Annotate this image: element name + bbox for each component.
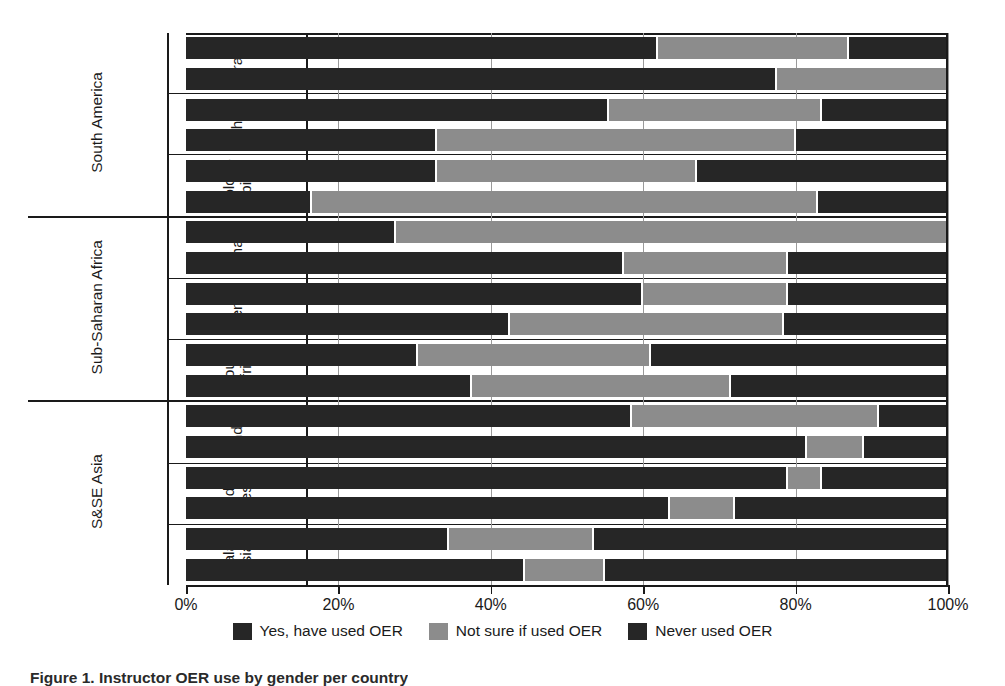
- bar-segment: [605, 559, 946, 581]
- bar-segment: [658, 37, 847, 59]
- bar-segment: [784, 313, 946, 335]
- x-tick-20: [338, 585, 340, 594]
- plot-area: [186, 33, 948, 585]
- bar-row: [186, 191, 948, 213]
- legend-swatch-icon: [628, 623, 647, 640]
- bar-segment: [807, 436, 862, 458]
- region-label-text: S&SE Asia: [89, 454, 105, 529]
- x-tick-80: [796, 585, 798, 594]
- bar-segment: [643, 283, 786, 305]
- legend-item[interactable]: Yes, have used OER: [233, 622, 403, 640]
- bar-segment: [796, 129, 946, 151]
- bar-segment: [731, 375, 946, 397]
- bar-segment: [449, 528, 592, 550]
- x-tick-0: [186, 585, 188, 594]
- bar-segment: [788, 283, 946, 305]
- bar-segment: [186, 344, 416, 366]
- bar-segment: [624, 252, 786, 274]
- bar-segment: [396, 221, 946, 243]
- bar-row: [186, 528, 948, 550]
- bar-row: [186, 497, 948, 519]
- x-tick-40: [491, 585, 493, 594]
- bar-row: [186, 160, 948, 182]
- bar-segment: [525, 559, 603, 581]
- bar-segment: [186, 559, 523, 581]
- bar-segment: [788, 252, 946, 274]
- bar-segment: [312, 191, 817, 213]
- region-label-sub-saharan-africa: Sub-Saharan Africa: [28, 217, 168, 402]
- region-label-text: South America: [89, 72, 105, 173]
- region-label-s-se-asia: S&SE Asia: [28, 401, 168, 585]
- x-tick-label: 100%: [928, 596, 969, 614]
- bar-segment: [777, 68, 946, 90]
- bar-segment: [849, 37, 946, 59]
- x-tick-label: 40%: [475, 596, 507, 614]
- x-tick-label: 60%: [627, 596, 659, 614]
- bar-segment: [186, 313, 508, 335]
- region-label-south-america: South America: [28, 33, 168, 217]
- bar-segment: [186, 221, 394, 243]
- bar-segment: [609, 99, 820, 121]
- bar-segment: [632, 405, 878, 427]
- bar-segment: [472, 375, 729, 397]
- figure-caption: Figure 1. Instructor OER use by gender p…: [30, 669, 408, 686]
- bar-row: [186, 344, 948, 366]
- bar-segment: [186, 160, 435, 182]
- legend-item[interactable]: Never used OER: [628, 622, 772, 640]
- bar-row: [186, 68, 948, 90]
- bar-row: [186, 375, 948, 397]
- x-tick-label: 0%: [174, 596, 197, 614]
- bar-row: [186, 405, 948, 427]
- figure-container: South AmericaBrazilFemaleMaleChileFemale…: [0, 0, 1005, 686]
- bar-row: [186, 559, 948, 581]
- legend-swatch-icon: [233, 623, 252, 640]
- bar-segment: [818, 191, 946, 213]
- legend-item[interactable]: Not sure if used OER: [429, 622, 602, 640]
- bar-row: [186, 436, 948, 458]
- bar-segment: [186, 99, 607, 121]
- legend-label: Not sure if used OER: [456, 622, 602, 640]
- bar-row: [186, 313, 948, 335]
- legend-label: Never used OER: [655, 622, 772, 640]
- legend-swatch-icon: [429, 623, 448, 640]
- bar-segment: [822, 99, 946, 121]
- bar-segment: [437, 129, 793, 151]
- bar-row: [186, 99, 948, 121]
- bar-row: [186, 37, 948, 59]
- bar-segment: [822, 467, 946, 489]
- bar-segment: [735, 497, 946, 519]
- gridline-100: [948, 33, 949, 585]
- bar-segment: [437, 160, 694, 182]
- bar-segment: [697, 160, 946, 182]
- bar-row: [186, 283, 948, 305]
- bar-row: [186, 252, 948, 274]
- bar-segment: [186, 283, 641, 305]
- bar-segment: [186, 467, 786, 489]
- bar-segment: [186, 252, 622, 274]
- x-tick-60: [643, 585, 645, 594]
- bar-segment: [864, 436, 946, 458]
- bar-segment: [670, 497, 733, 519]
- bar-segment: [186, 436, 805, 458]
- x-tick-label: 20%: [322, 596, 354, 614]
- bar-segment: [186, 528, 447, 550]
- bar-segment: [186, 375, 470, 397]
- legend-label: Yes, have used OER: [260, 622, 403, 640]
- legend: Yes, have used OERNot sure if used OERNe…: [0, 622, 1005, 640]
- bar-row: [186, 129, 948, 151]
- bar-row: [186, 221, 948, 243]
- bar-segment: [594, 528, 946, 550]
- bar-segment: [788, 467, 820, 489]
- bar-row: [186, 467, 948, 489]
- x-tick-label: 80%: [780, 596, 812, 614]
- region-label-text: Sub-Saharan Africa: [89, 240, 105, 374]
- bar-segment: [879, 405, 946, 427]
- bar-segment: [186, 129, 435, 151]
- bar-segment: [186, 497, 668, 519]
- bar-segment: [186, 37, 656, 59]
- bar-segment: [186, 191, 310, 213]
- bar-segment: [186, 405, 630, 427]
- bar-segment: [186, 68, 775, 90]
- x-axis-line: [186, 585, 949, 587]
- x-tick-100: [948, 585, 950, 594]
